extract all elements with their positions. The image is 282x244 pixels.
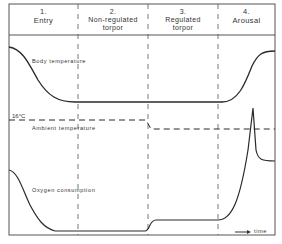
phase-name: Non-regulated torpor (78, 16, 148, 32)
oxygen-consumption-label: Oxygen consumption (32, 187, 95, 193)
time-arrow-icon (235, 230, 251, 234)
phase-header-arousal: 4. Arousal (218, 7, 275, 25)
phase-number: 4. (218, 7, 275, 16)
body-temperature-curve (9, 47, 275, 102)
hibernation-phase-diagram: 1. Entry 2. Non-regulated torpor 3. Regu… (0, 0, 282, 244)
phase-number: 2. (78, 7, 148, 16)
diagram-canvas (0, 0, 282, 244)
phase-number: 1. (9, 7, 78, 16)
phase-name: Regulated torpor (148, 16, 218, 32)
phase-header-regulated-torpor: 3. Regulated torpor (148, 7, 218, 32)
body-temperature-label: Body temperature (32, 58, 86, 64)
phase-header-entry: 1. Entry (9, 7, 78, 25)
phase-name: Entry (9, 16, 78, 25)
phase-name: Arousal (218, 16, 275, 25)
time-axis-label: time (254, 228, 267, 234)
phase-header-non-regulated-torpor: 2. Non-regulated torpor (78, 7, 148, 32)
phase-number: 3. (148, 7, 218, 16)
threshold-label: 16°C (12, 113, 25, 119)
ambient-temperature-label: Ambient temperature (32, 125, 96, 131)
